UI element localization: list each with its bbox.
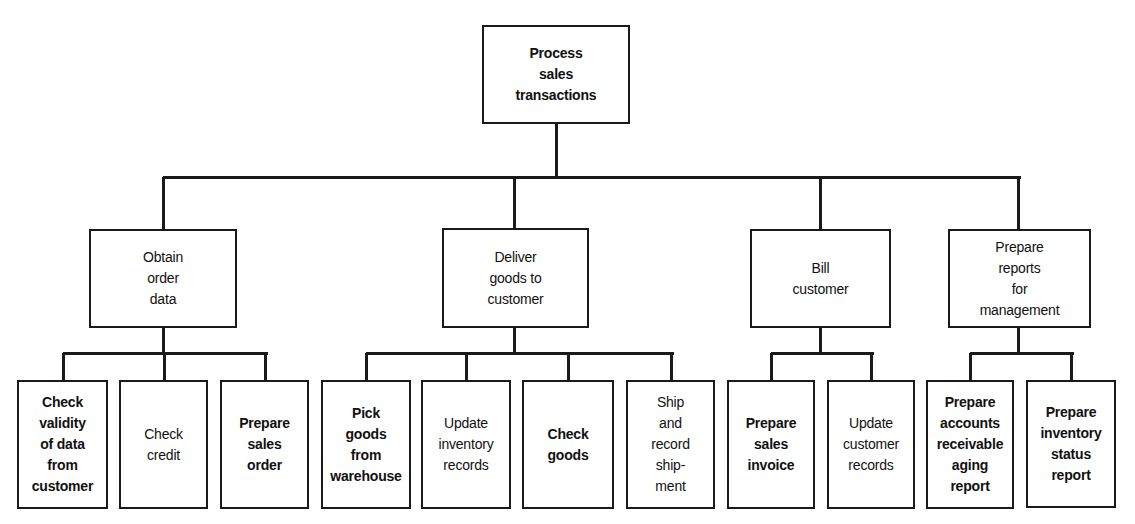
- task-box-ship-and-record-ship-ment: Ship and record ship- ment: [626, 380, 715, 509]
- level1-connector-line: [162, 177, 165, 230]
- child-connector-line: [163, 353, 166, 381]
- child-connector-line: [670, 353, 673, 381]
- task-box-check-credit: Check credit: [119, 380, 208, 509]
- level1-down-line: [819, 327, 822, 354]
- level1-connector-line: [1017, 177, 1020, 230]
- child-connector-line: [770, 353, 773, 381]
- process-box-prepare-reports-for-management: Prepare reports for management: [948, 229, 1091, 328]
- child-connector-line: [567, 353, 570, 381]
- hierarchy-diagram: Check validity of data from customerChec…: [0, 0, 1135, 524]
- task-box-check-validity-of-data-from-customer: Check validity of data from customer: [17, 380, 108, 509]
- task-box-prepare-inventory-status-report: Prepare inventory status report: [1026, 380, 1116, 508]
- main-bus-line: [163, 176, 1021, 179]
- root-connector-line: [555, 123, 558, 178]
- child-connector-line: [62, 353, 65, 381]
- task-box-pick-goods-from-warehouse: Pick goods from warehouse: [321, 380, 411, 509]
- child-connector-line: [1070, 353, 1073, 381]
- child-connector-line: [465, 353, 468, 381]
- child-connector-line: [969, 353, 972, 381]
- level1-down-line: [1017, 327, 1020, 354]
- level1-connector-line: [819, 177, 822, 230]
- sub-bus-line-bill-customer: [771, 352, 874, 355]
- level1-down-line: [513, 327, 516, 354]
- level1-connector-line: [513, 177, 516, 229]
- child-connector-line: [365, 353, 368, 381]
- task-box-prepare-sales-order: Prepare sales order: [220, 380, 309, 509]
- child-connector-line: [870, 353, 873, 381]
- task-box-prepare-sales-invoice: Prepare sales invoice: [727, 380, 815, 509]
- task-box-update-inventory-records: Update inventory records: [421, 380, 511, 509]
- level1-down-line: [162, 327, 165, 354]
- sub-bus-line-prepare-reports-for-management: [970, 352, 1074, 355]
- process-box-obtain-order-data: Obtain order data: [89, 229, 237, 328]
- task-box-update-customer-records: Update customer records: [827, 380, 915, 509]
- sub-bus-line-deliver-goods-to-customer: [366, 352, 674, 355]
- task-box-check-goods: Check goods: [522, 380, 614, 509]
- process-box-bill-customer: Bill customer: [750, 229, 891, 328]
- process-box-deliver-goods-to-customer: Deliver goods to customer: [442, 228, 589, 328]
- child-connector-line: [264, 353, 267, 381]
- task-box-prepare-accounts-receivable-aging-report: Prepare accounts receivable aging report: [926, 380, 1014, 509]
- root-box-process-sales-transactions: Process sales transactions: [482, 25, 630, 124]
